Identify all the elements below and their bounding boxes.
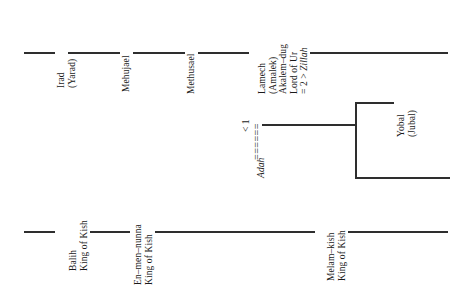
line-segment-enmennunna-to-melamkish [155, 231, 315, 233]
line-segment-before-irad [24, 52, 55, 54]
node-label-lamech: Lamech (Amalek) Akalem–dug Lord of Ur = … [257, 44, 310, 94]
line-segment-before-balih [24, 231, 55, 233]
node-label-yobal: Yobal (Jubal) [396, 110, 417, 137]
node-label-methusael: Methusael [186, 54, 197, 94]
descent-line-to-bracket [262, 124, 357, 126]
spouse-label-zillah: Zillah [299, 47, 309, 70]
lamech-second-wife-note: = 2 > Zillah [299, 44, 310, 94]
node-label-mehujael: Mehujael [121, 55, 132, 92]
generation-marker: < 1 [241, 120, 251, 132]
node-label-irad: Irad (Yarad) [56, 59, 77, 88]
node-label-melam-kish: Melam–kish King of Kish [326, 230, 347, 281]
line-segment-mehujael-to-methusael [133, 52, 185, 54]
line-segment-after-melamkish [348, 231, 448, 233]
spouse-label-adah: Adah [256, 158, 267, 178]
marriage-symbol: ====== [252, 123, 262, 160]
node-label-en-men-nunna: En–men–nunna King of Kish [133, 224, 154, 285]
line-segment-methusael-to-lamech [198, 52, 249, 54]
offspring-bracket-vertical [355, 102, 357, 179]
line-segment-balih-to-enmennunna [90, 231, 130, 233]
node-label-balih: Balih King of Kish [68, 220, 89, 271]
branch-line-lower [355, 177, 450, 179]
line-segment-after-lamech [310, 52, 448, 54]
genealogy-diagram: Irad (Yarad) Mehujael Methusael Lamech (… [0, 0, 470, 291]
branch-line-yobal [355, 102, 394, 104]
line-segment-irad-to-mehujael [68, 52, 120, 54]
